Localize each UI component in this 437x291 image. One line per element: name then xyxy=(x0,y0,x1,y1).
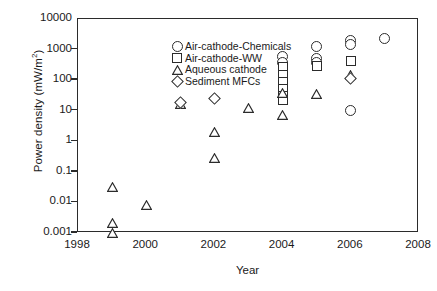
marker-triangle xyxy=(209,153,220,163)
plot-area: Air-cathode-ChemicalsAir-cathode-WWAqueo… xyxy=(77,18,418,232)
legend-marker xyxy=(171,41,184,53)
x-axis-tick-label: 2000 xyxy=(115,238,175,250)
marker-triangle xyxy=(209,127,220,137)
legend-marker xyxy=(171,76,184,88)
marker-square xyxy=(172,53,182,63)
marker-triangle xyxy=(311,89,322,99)
marker-diamond xyxy=(208,92,221,105)
x-axis-tick-label: 2004 xyxy=(252,238,312,250)
marker-square xyxy=(346,56,356,66)
y-axis-tick-label: 0.01 xyxy=(0,195,72,207)
y-axis-tick-label: 100 xyxy=(0,73,72,85)
marker-triangle xyxy=(243,103,254,113)
y-axis-tick-label: 10 xyxy=(0,104,72,116)
legend-label: Sediment MFCs xyxy=(184,76,260,88)
figure-scatter-power-density: Power density (mW/m2) Year 1000010001001… xyxy=(0,0,437,291)
x-axis-tick-label: 1998 xyxy=(47,238,107,250)
marker-square xyxy=(312,61,322,71)
y-axis-tick-label: 0.001 xyxy=(0,226,72,238)
y-axis-tick-label: 1000 xyxy=(0,43,72,55)
marker-circle xyxy=(311,41,322,52)
x-axis-title: Year xyxy=(77,264,418,276)
marker-circle xyxy=(172,41,183,52)
marker-triangle xyxy=(107,228,118,238)
x-axis-tick-label: 2006 xyxy=(320,238,380,250)
marker-triangle xyxy=(277,110,288,120)
legend-item[interactable]: Sediment MFCs xyxy=(171,76,291,88)
legend-label: Air-cathode-Chemicals xyxy=(184,41,291,53)
marker-diamond xyxy=(171,75,184,88)
y-axis-tick-label: 10000 xyxy=(0,12,72,24)
legend-item[interactable]: Air-cathode-Chemicals xyxy=(171,41,291,53)
marker-triangle xyxy=(172,65,183,75)
marker-triangle xyxy=(107,182,118,192)
marker-triangle xyxy=(277,88,288,98)
marker-circle xyxy=(345,39,356,50)
y-axis-title-exponent: 2 xyxy=(30,53,39,58)
y-axis-tick-label: 0.1 xyxy=(0,165,72,177)
chart-legend: Air-cathode-ChemicalsAir-cathode-WWAqueo… xyxy=(171,41,291,87)
marker-circle xyxy=(379,33,390,44)
marker-triangle xyxy=(141,200,152,210)
marker-triangle xyxy=(107,218,118,228)
x-axis-tick-label: 2008 xyxy=(388,238,437,250)
y-axis-tick-label: 1 xyxy=(0,134,72,146)
marker-circle xyxy=(345,105,356,116)
x-axis-tick-label: 2002 xyxy=(183,238,243,250)
legend-marker xyxy=(171,53,184,65)
legend-marker xyxy=(171,64,184,76)
